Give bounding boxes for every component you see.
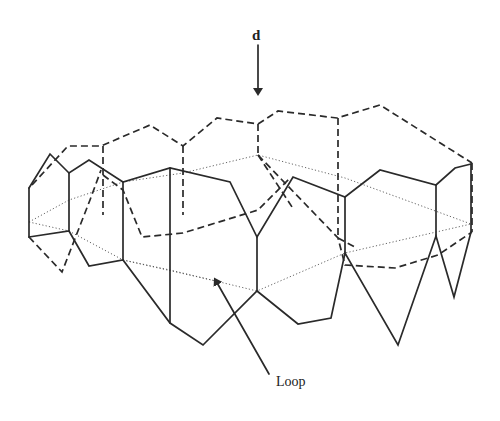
- solid-edge: [29, 231, 471, 345]
- dashed-edge: [32, 105, 472, 185]
- solid-front-edges: [29, 154, 471, 345]
- direction-label: d: [252, 27, 261, 43]
- dashed-back-edges: [29, 105, 472, 272]
- dashed-edge: [29, 170, 101, 272]
- dotted-edge: [29, 222, 69, 231]
- loop-diagram: d Loop: [0, 0, 500, 421]
- loop-label: Loop: [276, 374, 306, 389]
- solid-edge: [29, 154, 471, 237]
- dotted-edge: [29, 155, 471, 224]
- dotted-edge: [69, 224, 471, 291]
